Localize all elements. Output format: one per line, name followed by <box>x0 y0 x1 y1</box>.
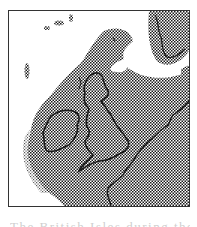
british-isles-map <box>9 11 189 206</box>
scandinavia-shaded <box>148 11 189 65</box>
map-frame <box>8 10 190 207</box>
map-caption: The British Isles during the Ice Age <box>10 216 190 227</box>
rockall-dots <box>25 63 30 79</box>
faroe-islands-dots <box>44 14 73 30</box>
